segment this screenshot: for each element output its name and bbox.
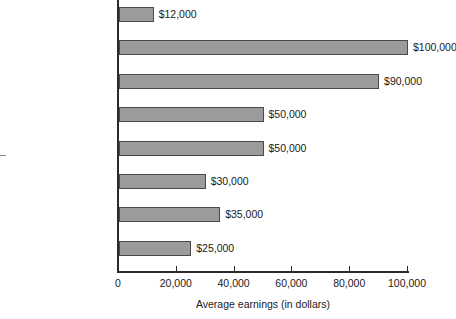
bar — [119, 207, 220, 222]
x-axis-tick — [407, 266, 408, 273]
x-axis-line — [117, 271, 409, 273]
x-axis-tick-label: 40,000 — [218, 277, 250, 289]
bar-value-label: $50,000 — [264, 107, 307, 122]
bar — [119, 107, 264, 122]
bar-wrapper — [119, 7, 154, 22]
bar — [119, 141, 264, 156]
bar-value-label: $35,000 — [220, 207, 263, 222]
x-axis-title: Average earnings (in dollars) — [117, 298, 409, 310]
bar — [119, 174, 206, 189]
bar-value-label: $30,000 — [206, 174, 249, 189]
bar-wrapper — [119, 40, 408, 55]
bar-wrapper — [119, 241, 191, 256]
bar — [119, 40, 408, 55]
x-axis-tick — [118, 266, 119, 273]
x-axis-tick — [234, 266, 235, 273]
bar-wrapper — [119, 141, 264, 156]
bar-wrapper — [119, 174, 206, 189]
x-axis-tick-label: 60,000 — [275, 277, 307, 289]
x-axis-tick-label: 20,000 — [160, 277, 192, 289]
bar — [119, 7, 154, 22]
bar-wrapper — [119, 107, 264, 122]
scan-artifact-mark — [0, 155, 6, 156]
x-axis-tick — [349, 266, 350, 273]
x-axis-tick-label: 100,000 — [388, 277, 426, 289]
bar-chart: All workers$12,000Physicians$100,000Atto… — [0, 0, 456, 319]
bar — [119, 74, 379, 89]
bar-value-label: $100,000 — [408, 40, 456, 55]
bar-value-label: $12,000 — [154, 7, 197, 22]
bar-value-label: $90,000 — [379, 74, 422, 89]
x-axis-tick-label: 0 — [115, 277, 121, 289]
x-axis-tick — [291, 266, 292, 273]
bar-wrapper — [119, 74, 379, 89]
bar-value-label: $25,000 — [191, 241, 234, 256]
x-axis-tick — [176, 266, 177, 273]
bar — [119, 241, 191, 256]
x-axis-tick-label: 80,000 — [333, 277, 365, 289]
bar-value-label: $50,000 — [264, 141, 307, 156]
bar-wrapper — [119, 207, 220, 222]
